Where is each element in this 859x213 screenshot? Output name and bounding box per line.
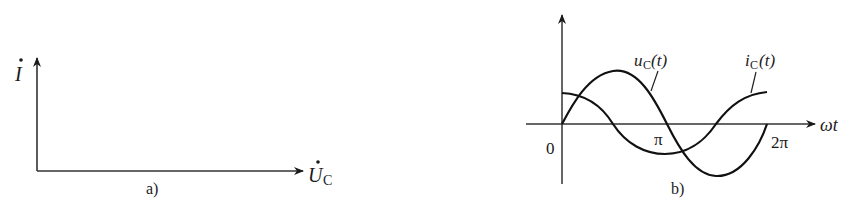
voltage-phasor-subscript: C <box>323 173 332 188</box>
ic-curve <box>562 92 767 154</box>
svg-text:C: C <box>750 58 758 72</box>
tick-2pi-label: 2π <box>771 133 789 152</box>
svg-text:(t): (t) <box>651 51 667 70</box>
panel-b: 0 π 2π ωt u C (t) i C (t) b) <box>526 15 839 198</box>
tick-pi-label: π <box>654 130 663 149</box>
x-axis-label: ωt <box>820 115 839 135</box>
uc-leader-line <box>651 71 658 91</box>
figure-canvas: I U C a) 0 π 2π ωt u C (t) i C (t) <box>0 0 859 213</box>
panel-a-caption: a) <box>146 180 158 198</box>
voltage-phasor-label: U <box>308 164 324 186</box>
panel-a: I U C a) <box>14 58 332 198</box>
panel-b-caption: b) <box>671 180 684 198</box>
current-phasor-label: I <box>14 63 23 85</box>
svg-text:C: C <box>643 58 651 72</box>
svg-text:(t): (t) <box>759 51 775 70</box>
phasor-dot-icon <box>19 58 23 62</box>
ic-curve-label: i C (t) <box>745 51 775 93</box>
svg-text:u: u <box>634 51 643 70</box>
uc-curve-label: u C (t) <box>634 51 667 91</box>
origin-label: 0 <box>546 139 555 158</box>
ic-leader-line <box>751 72 756 93</box>
